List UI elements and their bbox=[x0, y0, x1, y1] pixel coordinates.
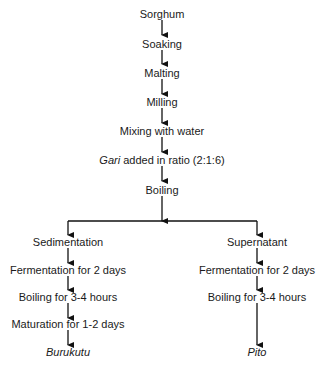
node-burukutu: Burukutu bbox=[46, 346, 90, 359]
node-right-fermentation: Fermentation for 2 days bbox=[199, 264, 315, 277]
node-boiling: Boiling bbox=[145, 184, 178, 197]
gari-ratio-text: added in ratio (2:1:6) bbox=[120, 154, 225, 166]
node-pito: Pito bbox=[248, 346, 267, 359]
node-right-boiling: Boiling for 3-4 hours bbox=[208, 291, 306, 304]
node-milling: Milling bbox=[146, 96, 177, 109]
node-maturation: Maturation for 1-2 days bbox=[11, 318, 124, 331]
node-soaking: Soaking bbox=[142, 38, 182, 51]
node-mixing-with-water: Mixing with water bbox=[120, 125, 204, 138]
node-gari-added: Gari added in ratio (2:1:6) bbox=[99, 154, 224, 167]
node-left-boiling: Boiling for 3-4 hours bbox=[19, 291, 117, 304]
node-sedimentation: Sedimentation bbox=[33, 236, 103, 249]
node-malting: Malting bbox=[144, 67, 179, 80]
gari-term: Gari bbox=[99, 154, 120, 166]
node-supernatant: Supernatant bbox=[227, 236, 287, 249]
node-sorghum: Sorghum bbox=[140, 8, 185, 21]
node-left-fermentation: Fermentation for 2 days bbox=[10, 264, 126, 277]
